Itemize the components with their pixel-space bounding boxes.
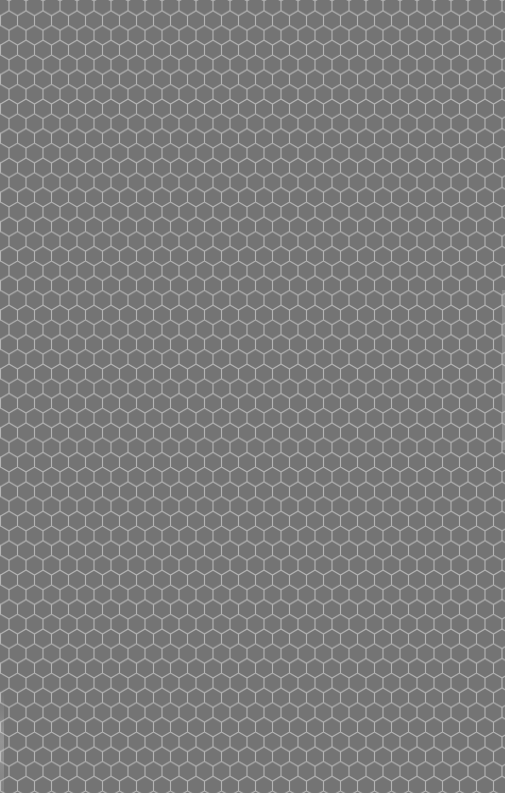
honeycomb-texture: [0, 0, 505, 793]
left-edge-highlight: [0, 690, 4, 793]
